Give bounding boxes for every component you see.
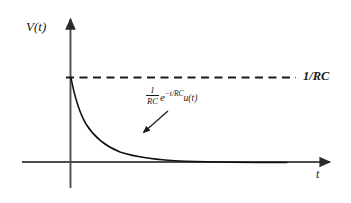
curve-equation-label: 1 RC e−t/RC u(t) <box>146 86 197 106</box>
fraction-numerator: 1 <box>149 86 155 95</box>
exponential-power: −t/RC <box>165 89 184 98</box>
asymptote-value-label: 1/RC <box>303 70 329 83</box>
y-axis-label: V(t) <box>26 20 46 33</box>
equation-exponential: e−t/RC <box>160 90 184 103</box>
annotation-arrow <box>144 111 169 133</box>
equation-fraction: 1 RC <box>146 86 159 106</box>
rc-impulse-response-figure: V(t) t 1/RC 1 RC e−t/RC u(t) <box>0 0 351 203</box>
fraction-denominator: RC <box>146 97 159 106</box>
x-axis-label: t <box>316 168 319 180</box>
unit-step-term: u(t) <box>184 94 198 104</box>
